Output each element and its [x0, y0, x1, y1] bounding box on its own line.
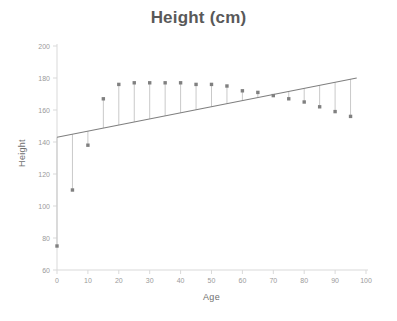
x-axis-tick-label: 10: [84, 277, 92, 284]
x-axis-tick-label: 90: [331, 277, 339, 284]
y-axis-tick-label: 100: [38, 203, 50, 210]
data-point-marker: [148, 81, 151, 84]
x-axis-tick-label: 100: [360, 277, 372, 284]
data-point-marker: [86, 144, 89, 147]
data-point-marker: [318, 105, 321, 108]
y-axis-tick-label: 180: [38, 75, 50, 82]
data-point-marker: [133, 81, 136, 84]
x-axis-tick-label: 70: [269, 277, 277, 284]
data-point-marker: [349, 115, 352, 118]
trend-line: [57, 78, 357, 137]
x-axis-tick-label: 80: [300, 277, 308, 284]
data-point-marker: [303, 100, 306, 103]
data-point-marker: [179, 81, 182, 84]
y-axis-label: Height: [17, 123, 27, 183]
data-point-marker: [71, 188, 74, 191]
data-point-marker: [194, 83, 197, 86]
x-axis-tick-label: 60: [239, 277, 247, 284]
data-point-marker: [241, 89, 244, 92]
y-axis-tick-label: 60: [42, 267, 50, 274]
data-point-marker: [287, 97, 290, 100]
data-point-marker: [210, 83, 213, 86]
data-point-marker: [333, 110, 336, 113]
x-axis-tick-label: 0: [55, 277, 59, 284]
x-axis-tick-label: 50: [208, 277, 216, 284]
x-axis-tick-label: 30: [146, 277, 154, 284]
chart-container: Height (cm) 6080100120140160180200010203…: [0, 0, 397, 321]
data-point-marker: [102, 97, 105, 100]
data-point-marker: [117, 83, 120, 86]
scatter-plot: 6080100120140160180200010203040506070809…: [0, 0, 397, 321]
x-axis-label: Age: [57, 292, 366, 302]
x-axis-tick-label: 40: [177, 277, 185, 284]
data-point-marker: [163, 81, 166, 84]
y-axis-tick-label: 120: [38, 171, 50, 178]
y-axis-tick-label: 200: [38, 43, 50, 50]
y-axis-tick-label: 80: [42, 235, 50, 242]
y-axis-tick-label: 140: [38, 139, 50, 146]
y-axis-tick-label: 160: [38, 107, 50, 114]
data-point-marker: [225, 84, 228, 87]
residual-lines-group: [57, 79, 351, 246]
data-point-marker: [55, 244, 58, 247]
data-point-marker: [272, 94, 275, 97]
x-axis-tick-label: 20: [115, 277, 123, 284]
data-point-marker: [256, 91, 259, 94]
data-points-group: [55, 81, 352, 248]
